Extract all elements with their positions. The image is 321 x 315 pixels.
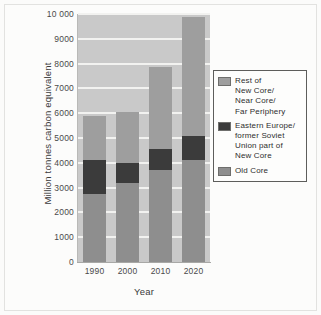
bar-segment — [116, 183, 139, 262]
bar-2020 — [182, 14, 205, 262]
y-tick-label: 6000 — [30, 109, 74, 118]
x-tick-label-2010: 2010 — [144, 266, 178, 276]
legend-label: Old Core — [235, 166, 268, 176]
bar-segment — [149, 170, 172, 262]
y-tick-label: 4000 — [30, 159, 74, 168]
bar-2010 — [149, 14, 172, 262]
legend-item: Rest of New Core/ Near Core/ Far Periphe… — [218, 76, 302, 117]
bar-segment — [116, 163, 139, 183]
x-tick-label-1990: 1990 — [78, 266, 112, 276]
bar-segment — [116, 112, 139, 163]
bar-segment — [83, 160, 106, 193]
bar-segment — [83, 194, 106, 262]
y-tick-label: 7000 — [30, 84, 74, 93]
bar-segment — [149, 149, 172, 170]
y-tick-label: 1000 — [30, 233, 74, 242]
legend-label: Eastern Europe/ former Soviet Union part… — [235, 121, 295, 162]
legend-swatch-icon — [218, 77, 231, 86]
y-tick-label: 5000 — [30, 134, 74, 143]
y-tick-label: 8000 — [30, 60, 74, 69]
y-tick-label: 0 — [30, 258, 74, 267]
y-axis-ticks: 010002000300040005000600070008000900010 … — [26, 0, 74, 315]
legend-item: Eastern Europe/ former Soviet Union part… — [218, 121, 302, 162]
x-axis-title: Year — [78, 286, 210, 297]
legend-swatch-icon — [218, 167, 231, 176]
bar-segment — [149, 67, 172, 149]
y-tick-label: 10 000 — [30, 10, 74, 19]
bar-segment — [182, 136, 205, 161]
y-tick-label: 9000 — [30, 35, 74, 44]
bar-segment — [182, 160, 205, 262]
legend-item: Old Core — [218, 166, 302, 176]
legend-swatch-icon — [218, 122, 231, 131]
chart-figure: Million tonnes carbon equivalent 0100020… — [0, 0, 321, 315]
chart-legend: Rest of New Core/ Near Core/ Far Periphe… — [213, 70, 307, 182]
x-tick-label-2000: 2000 — [111, 266, 145, 276]
bar-1990 — [83, 14, 106, 262]
bar-2000 — [116, 14, 139, 262]
y-axis-line — [77, 14, 78, 263]
bar-segment — [83, 116, 106, 161]
bar-segment — [182, 17, 205, 136]
x-axis-line — [77, 262, 211, 263]
legend-label: Rest of New Core/ Near Core/ Far Periphe… — [235, 76, 285, 117]
x-tick-label-2020: 2020 — [177, 266, 211, 276]
plot-area — [78, 14, 210, 262]
y-tick-label: 3000 — [30, 184, 74, 193]
y-tick-label: 2000 — [30, 208, 74, 217]
